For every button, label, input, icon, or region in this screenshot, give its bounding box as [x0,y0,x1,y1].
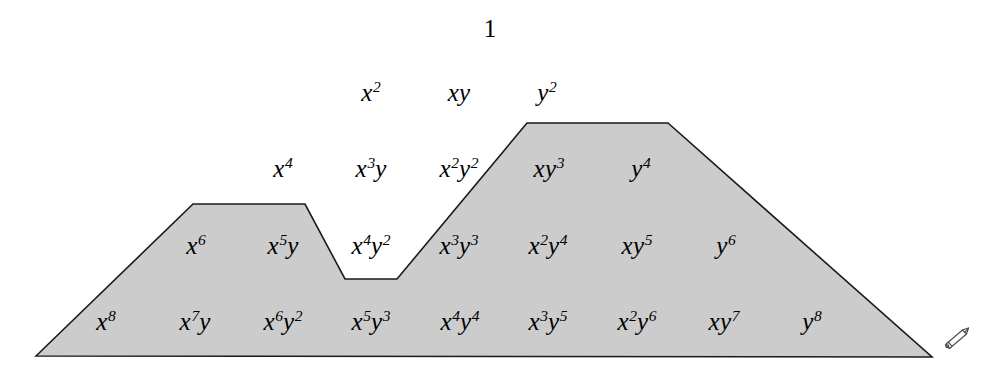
monomial-term: x4 [273,156,293,181]
monomial-term: x2y4 [528,233,567,258]
monomial-term: x4y2 [351,233,390,258]
apex-term: 1 [484,16,497,41]
monomial-term: x2y6 [617,309,656,334]
monomial-term: y6 [716,233,736,258]
monomial-term: y2 [537,80,557,105]
monomial-term: xy3 [534,156,565,181]
shaded-region-polygon [36,123,932,357]
binomial-triangle-figure: 1x2xyy2x4x3yx2y2xy3y4x6x5yx4y2x3y3x2y4xy… [0,0,986,372]
pencil-icon [938,322,978,356]
monomial-term: x7y [180,309,211,334]
monomial-term: xy [448,80,471,105]
monomial-term: x6y2 [263,309,302,334]
monomial-term: xy5 [622,233,653,258]
monomial-term: x3y5 [528,309,567,334]
monomial-term: x5y [268,233,299,258]
monomial-term: x2 [361,80,381,105]
monomial-term: y8 [802,309,822,334]
monomial-term: x8 [96,309,116,334]
monomial-term: x5y3 [351,309,390,334]
monomial-term: x2y2 [439,156,478,181]
shaded-region-layer [0,0,986,372]
monomial-term: y4 [631,156,651,181]
monomial-term: xy7 [709,309,740,334]
monomial-term: x3y3 [439,233,478,258]
monomial-term: x4y4 [440,309,479,334]
monomial-term: x6 [186,233,206,258]
monomial-term: x3y [356,156,387,181]
